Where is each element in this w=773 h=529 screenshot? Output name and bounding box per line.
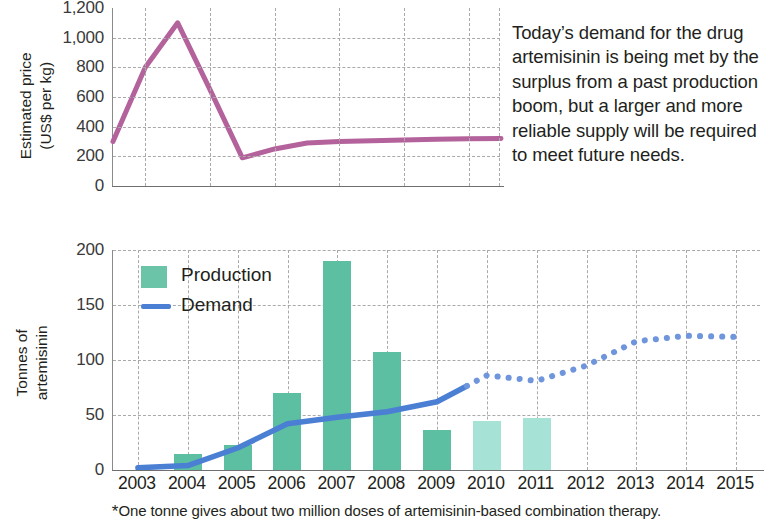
price-gridline-2015 (499, 8, 500, 186)
estimated-price-line (113, 23, 501, 158)
legend-label-demand: Demand (181, 294, 253, 316)
tonnes-x-axis-line (112, 470, 764, 471)
price-ytick-1000: 1,000 (28, 28, 104, 48)
tonnes-ytick-50: 50 (36, 405, 104, 425)
tonnes-xtick-2015: 2015 (716, 473, 754, 494)
tonnes-xtick-2003: 2003 (118, 473, 156, 494)
demand-line-solid (138, 386, 467, 468)
tonnes-ytick-150: 150 (36, 295, 104, 315)
price-ytick-0: 0 (28, 176, 104, 196)
tonnes-xtick-2005: 2005 (218, 473, 256, 494)
price-ytick-600: 600 (28, 87, 104, 107)
legend-swatch-production (141, 266, 167, 288)
blurb-text: Today’s demand for the drug artemisinin … (512, 21, 770, 169)
tonnes-xtick-2012: 2012 (567, 473, 605, 494)
tonnes-y-axis-title-line1: Tonnes of (12, 283, 32, 443)
price-ytick-800: 800 (28, 57, 104, 77)
tonnes-ytick-200: 200 (36, 240, 104, 260)
tonnes-x-axis-labels: 2003200420052006200720082009201020112012… (0, 473, 773, 501)
footnote: *One tonne gives about two million doses… (0, 502, 773, 522)
price-ytick-400: 400 (28, 117, 104, 137)
tonnes-xtick-2013: 2013 (617, 473, 655, 494)
price-ytick-1200: 1,200 (28, 0, 104, 18)
tonnes-xtick-2014: 2014 (666, 473, 704, 494)
price-x-axis-line (112, 186, 504, 187)
tonnes-xtick-2004: 2004 (168, 473, 206, 494)
price-line-series (113, 8, 501, 186)
legend-line-demand (141, 304, 171, 309)
tonnes-xtick-2011: 2011 (517, 473, 553, 494)
legend-label-production: Production (181, 264, 272, 286)
tonnes-xtick-2006: 2006 (268, 473, 306, 494)
tonnes-of-artemisinin-chart: Tonnes of artemisinin 200 150 100 50 0 (0, 215, 773, 529)
tonnes-ytick-100: 100 (36, 350, 104, 370)
demand-line-projected (467, 336, 736, 386)
footnote-text: One tonne gives about two million doses … (118, 502, 661, 519)
price-plot-area (112, 8, 500, 186)
tonnes-plot-area: Production Demand (112, 250, 760, 470)
price-ytick-200: 200 (28, 146, 104, 166)
tonnes-xtick-2008: 2008 (367, 473, 405, 494)
tonnes-xtick-2010: 2010 (467, 473, 505, 494)
tonnes-xtick-2009: 2009 (417, 473, 455, 494)
tonnes-xtick-2007: 2007 (317, 473, 355, 494)
